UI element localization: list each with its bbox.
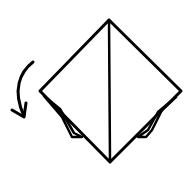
origami-diagram xyxy=(0,0,187,169)
center-crease xyxy=(109,20,110,162)
left-flap xyxy=(44,96,82,137)
origami-fold-illustration xyxy=(0,0,187,169)
